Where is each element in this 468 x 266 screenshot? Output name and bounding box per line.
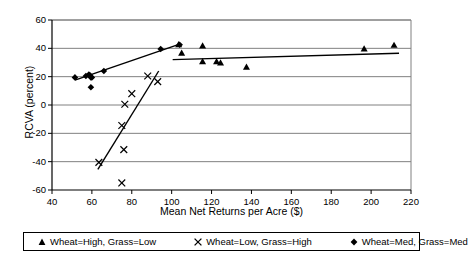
x-tick-label: 120 xyxy=(192,196,232,207)
data-point-diamond xyxy=(101,68,108,75)
diamond-marker xyxy=(348,236,360,248)
trendline-x xyxy=(98,71,159,169)
legend-label: Wheat=Low, Grass=High xyxy=(206,237,312,247)
data-point-triangle xyxy=(243,64,250,70)
y-tick-label: 20 xyxy=(10,71,46,82)
legend-label: Wheat=High, Grass=Low xyxy=(50,237,156,247)
x-tick-label: 140 xyxy=(231,196,271,207)
x-tick-label: 200 xyxy=(351,196,391,207)
triangle-marker xyxy=(36,236,48,248)
x-tick-label: 220 xyxy=(391,196,431,207)
legend-entry-1: Wheat=Low, Grass=High xyxy=(192,236,312,248)
data-point-triangle xyxy=(178,49,185,55)
legend-entry-2: Wheat=Med, Grass=Med xyxy=(348,236,468,248)
x-marker xyxy=(192,236,204,248)
legend-entry-0: Wheat=High, Grass=Low xyxy=(36,236,156,248)
y-tick-label: 60 xyxy=(10,14,46,25)
y-tick-label: -60 xyxy=(10,184,46,195)
y-tick-label: -40 xyxy=(10,156,46,167)
x-tick-label: 60 xyxy=(72,196,112,207)
y-tick-label: 0 xyxy=(10,99,46,110)
x-tick-label: 180 xyxy=(311,196,351,207)
x-tick-label: 80 xyxy=(112,196,152,207)
trendline-triangle xyxy=(173,53,399,59)
data-point-triangle xyxy=(391,42,398,48)
y-tick-label: -20 xyxy=(10,127,46,138)
x-tick-label: 160 xyxy=(271,196,311,207)
legend-label: Wheat=Med, Grass=Med xyxy=(362,237,468,247)
chart-legend: Wheat=High, Grass=LowWheat=Low, Grass=Hi… xyxy=(23,232,420,251)
y-tick-label: 40 xyxy=(10,42,46,53)
data-point-diamond xyxy=(88,84,95,91)
data-point-triangle xyxy=(199,42,206,48)
x-tick-label: 100 xyxy=(152,196,192,207)
x-tick-label: 40 xyxy=(32,196,72,207)
